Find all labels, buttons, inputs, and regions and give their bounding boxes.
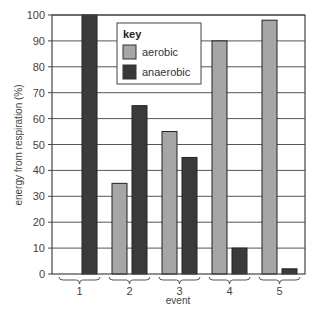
x-tick-label: 1 <box>76 285 82 297</box>
y-axis-ticks: 0102030405060708090100 <box>27 9 52 280</box>
bar-anaerobic-2 <box>132 106 147 274</box>
bar-aerobic-5 <box>262 20 277 274</box>
y-tick-label: 80 <box>33 61 45 73</box>
category-brace <box>209 277 250 284</box>
bar-chart: 0102030405060708090100 12345 event energ… <box>0 0 320 316</box>
x-tick-label: 4 <box>226 285 232 297</box>
category-brace <box>109 277 150 284</box>
bar-anaerobic-3 <box>182 157 197 274</box>
legend-label-anaerobic: anaerobic <box>142 66 191 78</box>
y-tick-label: 50 <box>33 139 45 151</box>
bar-aerobic-3 <box>162 132 177 274</box>
bar-anaerobic-5 <box>282 269 297 274</box>
bar-anaerobic-4 <box>232 248 247 274</box>
bar-aerobic-2 <box>112 183 127 274</box>
x-axis-title: event <box>166 295 191 306</box>
legend-label-aerobic: aerobic <box>142 46 179 58</box>
y-tick-label: 60 <box>33 113 45 125</box>
y-tick-label: 70 <box>33 87 45 99</box>
y-tick-label: 40 <box>33 164 45 176</box>
legend: key aerobic anaerobic <box>117 23 201 84</box>
y-tick-label: 20 <box>33 216 45 228</box>
y-tick-label: 30 <box>33 190 45 202</box>
category-brace <box>259 277 300 284</box>
y-tick-label: 0 <box>39 268 45 280</box>
category-brace <box>159 277 200 284</box>
y-tick-label: 90 <box>33 35 45 47</box>
bar-aerobic-4 <box>212 41 227 274</box>
y-tick-label: 100 <box>27 9 45 21</box>
y-axis-title: energy from respiration (%) <box>13 84 24 205</box>
legend-swatch-anaerobic <box>123 65 136 79</box>
legend-swatch-aerobic <box>123 45 136 59</box>
x-tick-label: 2 <box>126 285 132 297</box>
legend-title: key <box>123 28 142 40</box>
x-tick-label: 5 <box>276 285 282 297</box>
category-brace <box>59 277 100 284</box>
x-axis-ticks: 12345 <box>59 277 300 297</box>
bar-anaerobic-1 <box>82 15 97 274</box>
y-tick-label: 10 <box>33 242 45 254</box>
